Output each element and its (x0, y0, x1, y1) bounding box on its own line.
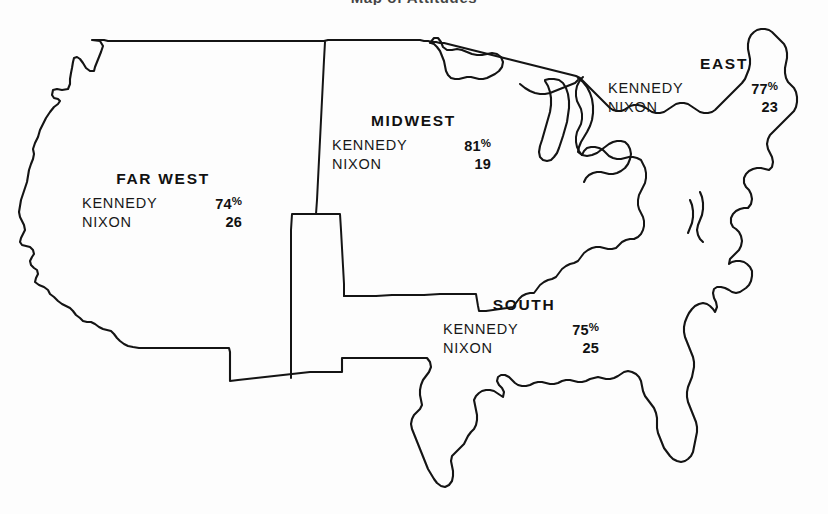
region-row-kennedy: KENNEDY 75% (443, 320, 599, 340)
region-label-east: EAST KENNEDY 77% NIXON 23 (608, 56, 784, 117)
region-row-kennedy: KENNEDY 81% (332, 136, 491, 156)
divider-far-west-south (291, 214, 316, 378)
region-rows-far-west: KENNEDY 74% NIXON 26 (82, 194, 242, 233)
candidate-value-kennedy: 81% (464, 136, 491, 156)
candidate-name-kennedy: KENNEDY (82, 194, 157, 213)
region-name-south: SOUTH (449, 297, 599, 313)
candidate-value-kennedy: 75% (572, 320, 599, 340)
percent-sign: % (481, 137, 491, 149)
region-rows-south: KENNEDY 75% NIXON 25 (443, 320, 599, 359)
region-rows-east: KENNEDY 77% NIXON 23 (608, 79, 784, 118)
candidate-name-nixon: NIXON (608, 98, 720, 117)
region-name-midwest: MIDWEST (336, 113, 491, 129)
region-row-kennedy: KENNEDY 74% (82, 194, 242, 214)
kennedy-pct-value: 81 (464, 137, 481, 153)
poll-map-page: Map of Attitudes FAR WEST KENNEDY (0, 0, 828, 514)
region-label-south: SOUTH KENNEDY 75% NIXON 25 (443, 297, 599, 358)
region-rows-midwest: KENNEDY 81% NIXON 19 (332, 136, 491, 175)
candidate-value-nixon: 23 (720, 98, 778, 117)
candidate-value-kennedy: 77% (720, 79, 778, 99)
region-label-midwest: MIDWEST KENNEDY 81% NIXON 19 (332, 113, 491, 174)
kennedy-pct-value: 77 (751, 80, 768, 96)
percent-sign: % (232, 195, 242, 207)
region-row-nixon: NIXON 26 (82, 213, 242, 232)
kennedy-pct-value: 75 (572, 321, 589, 337)
percent-sign: % (768, 80, 778, 92)
candidate-value-kennedy: 74% (215, 194, 242, 214)
northern-border-lakes (430, 38, 503, 79)
candidate-name-kennedy: KENNEDY (443, 320, 518, 339)
region-row-nixon: NIXON 19 (332, 155, 491, 174)
candidate-name-kennedy: KENNEDY (608, 79, 720, 98)
region-name-far-west: FAR WEST (84, 171, 242, 187)
divider-midwest-east (582, 147, 646, 239)
region-row-nixon: NIXON 25 (443, 339, 599, 358)
region-name-east: EAST (664, 56, 784, 72)
percent-sign: % (589, 321, 599, 333)
candidate-name-kennedy: KENNEDY (332, 136, 407, 155)
chesapeake-bay (688, 192, 703, 242)
candidate-name-nixon: NIXON (443, 339, 493, 358)
candidate-value-nixon: 25 (582, 339, 599, 358)
region-label-far-west: FAR WEST KENNEDY 74% NIXON 26 (82, 171, 242, 232)
region-row-kennedy: KENNEDY 77% (608, 79, 784, 99)
candidate-name-nixon: NIXON (82, 213, 132, 232)
region-row-nixon: NIXON 23 (608, 98, 784, 117)
kennedy-pct-value: 74 (215, 195, 232, 211)
candidate-name-nixon: NIXON (332, 155, 382, 174)
candidate-value-nixon: 19 (474, 155, 491, 174)
candidate-value-nixon: 26 (225, 213, 242, 232)
